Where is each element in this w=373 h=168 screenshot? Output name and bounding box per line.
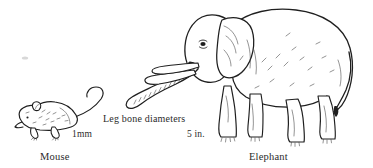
mouse-nose xyxy=(15,126,17,128)
elephant-front-leg-near xyxy=(219,86,237,137)
caption-mouse: Mouse xyxy=(40,152,70,163)
elephant-illustration xyxy=(126,9,352,146)
mouse-tail xyxy=(75,87,103,117)
illustration-canvas xyxy=(0,0,373,168)
elephant-front-foot-near-nails xyxy=(221,138,235,142)
paper-speck xyxy=(22,56,28,59)
scale-label-elephant: 5 in. xyxy=(187,130,205,140)
elephant-front-foot-far-nails xyxy=(251,138,260,142)
elephant-front-leg-far xyxy=(248,94,263,137)
leg-bone-diameter-figure: Leg bone diameters 1mm 5 in. Mouse Eleph… xyxy=(0,0,373,168)
annotation-leg-bone-diameters: Leg bone diameters xyxy=(103,114,185,124)
caption-elephant: Elephant xyxy=(249,152,288,163)
elephant-hind-foot-near-nails xyxy=(291,143,300,147)
mouse-eye xyxy=(26,116,28,118)
scale-label-mouse: 1mm xyxy=(72,130,92,140)
elephant-hind-foot-far-nails xyxy=(323,140,332,144)
